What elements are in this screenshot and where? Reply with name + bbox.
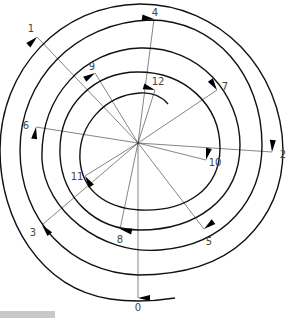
point-label: 2: [280, 149, 286, 160]
ray-line: [138, 143, 272, 152]
radial-lines: [36, 19, 272, 298]
point-label: 5: [206, 236, 212, 247]
arrow-markers: [26, 14, 276, 301]
point-label: 1: [28, 23, 34, 34]
arrow-marker-icon: [83, 73, 95, 82]
ray-line: [138, 90, 217, 143]
point-label: 7: [222, 81, 228, 92]
point-label: 9: [89, 61, 95, 72]
point-label: 6: [23, 120, 29, 131]
spiral-curve: [0, 4, 283, 301]
spiral-diagram: 0123456789101112: [0, 0, 292, 318]
arrow-marker-icon: [270, 140, 276, 152]
ray-line: [138, 90, 155, 143]
ray-line: [36, 127, 138, 143]
ray-line: [85, 143, 138, 176]
arrow-marker-icon: [138, 295, 150, 301]
point-label: 3: [30, 227, 36, 238]
point-label: 0: [135, 302, 141, 313]
arrow-marker-icon: [26, 37, 37, 47]
ray-line: [138, 143, 204, 229]
point-label: 10: [209, 157, 222, 168]
arrow-marker-icon: [31, 127, 37, 139]
point-label: 12: [152, 76, 165, 87]
arrow-marker-icon: [204, 219, 215, 229]
point-label: 4: [152, 7, 158, 18]
image-edge-artifact: [0, 311, 55, 318]
point-label: 8: [117, 234, 123, 245]
point-label: 11: [71, 171, 84, 182]
